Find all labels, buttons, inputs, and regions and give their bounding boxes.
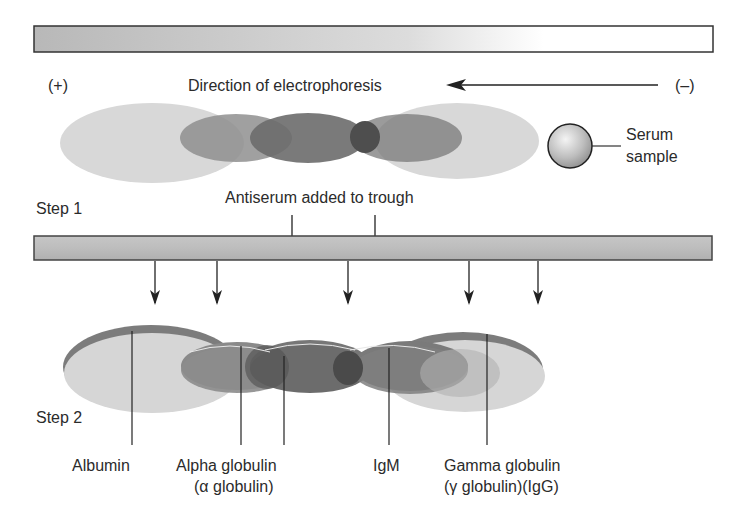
top-gel-strip (34, 26, 713, 52)
diffusion-arrowheads-icon (150, 290, 543, 305)
step1-beta-band (250, 113, 366, 163)
direction-label: Direction of electrophoresis (188, 76, 382, 95)
igm-label: IgM (373, 456, 400, 475)
step1-bands (60, 103, 539, 183)
gamma-globulin-label: Gamma globulin (444, 456, 561, 475)
anode-label: (+) (48, 76, 68, 95)
serum-label-line1: Serum (626, 125, 673, 144)
step2-label: Step 2 (36, 408, 82, 427)
alpha-globulin-sublabel: (α globulin) (194, 477, 274, 496)
step2-bands (63, 325, 545, 413)
step2-overlap (333, 351, 363, 385)
albumin-label: Albumin (72, 456, 130, 475)
immunoelectrophoresis-diagram: (+) Direction of electrophoresis (–) Ser… (0, 0, 744, 525)
gamma-globulin-sublabel: (γ globulin)(IgG) (444, 477, 559, 496)
cathode-label: (–) (675, 76, 695, 95)
antiserum-trough (34, 236, 712, 260)
alpha-globulin-label: Alpha globulin (176, 456, 277, 475)
serum-label-line2: sample (626, 147, 678, 166)
antiserum-label: Antiserum added to trough (225, 188, 414, 207)
step1-overlap (350, 121, 380, 153)
serum-sample-well-icon (548, 124, 592, 168)
step1-label: Step 1 (36, 199, 82, 218)
